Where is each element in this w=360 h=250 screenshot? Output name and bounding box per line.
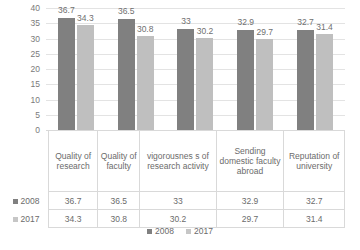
legend-item-2008: 2008 (147, 226, 174, 236)
bar-value-label: 36.7 (58, 6, 75, 15)
y-axis-tick-label: 30 (0, 35, 40, 44)
bar-2017: 34.3 (77, 25, 94, 130)
y-axis-tick-label: 35 (0, 19, 40, 28)
bar-group: 32.731.4 (285, 8, 345, 130)
bar-2008: 32.9 (237, 30, 254, 130)
y-axis-tick-label: 5 (0, 111, 40, 120)
bar-value-label: 32.7 (297, 18, 314, 27)
y-axis-tick-label: 15 (0, 80, 40, 89)
table-value-cell: 36.5 (98, 192, 140, 210)
legend-label: 2008 (155, 226, 174, 236)
bar-value-label: 29.7 (257, 28, 274, 37)
legend-item-2017: 2017 (186, 226, 213, 236)
table-value-cell: 32.9 (216, 192, 284, 210)
table-value-cell: 36.7 (49, 192, 98, 210)
bar-2017: 29.7 (256, 39, 273, 130)
table-row-header-label: 2008 (21, 196, 40, 206)
table-category-cell: vigorousnes s of research activity (140, 131, 216, 192)
table-value-cell: 34.3 (49, 210, 98, 228)
table-value-cell: 30.2 (140, 210, 216, 228)
y-axis-tick-label: 10 (0, 96, 40, 105)
bar-2017: 31.4 (316, 34, 333, 130)
table-category-cell: Quality of faculty (98, 131, 140, 192)
bar-value-label: 31.4 (316, 23, 333, 32)
table-value-cell: 30.8 (98, 210, 140, 228)
bar-2017: 30.8 (137, 36, 154, 130)
series-swatch-icon (13, 217, 18, 222)
bar-groups: 36.734.336.530.83330.232.929.732.731.4 (46, 8, 345, 130)
y-axis-tick-label: 25 (0, 50, 40, 59)
table-row-header-label: 2017 (21, 214, 40, 224)
data-table-body: Quality of researchQuality of facultyvig… (4, 131, 345, 228)
bar-value-label: 32.9 (238, 18, 255, 27)
bar-group: 36.734.3 (46, 8, 106, 130)
bar-value-label: 30.2 (197, 27, 214, 36)
table-value-cell: 31.4 (284, 210, 345, 228)
bar-2008: 33 (177, 29, 194, 130)
bar-value-label: 33 (181, 17, 190, 26)
bar-2008: 36.7 (58, 18, 75, 130)
table-row-header-2017: 2017 (4, 210, 49, 228)
table-category-cell: Quality of research (49, 131, 98, 192)
table-value-cell: 29.7 (216, 210, 284, 228)
bar-value-label: 30.8 (137, 25, 154, 34)
table-row-categories: Quality of researchQuality of facultyvig… (4, 131, 345, 192)
data-table: Quality of researchQuality of facultyvig… (4, 130, 345, 228)
table-row-header-2008: 2008 (4, 192, 49, 210)
legend-swatch-icon (147, 229, 152, 234)
y-axis-ticks: 4035302520151050 (0, 8, 40, 130)
y-axis-tick-label: 40 (0, 4, 40, 13)
bar-value-label: 36.5 (118, 7, 135, 16)
table-corner-cell (4, 131, 49, 192)
bar-value-label: 34.3 (77, 14, 94, 23)
table-category-cell: Reputation of university (284, 131, 345, 192)
bar-2008: 36.5 (118, 19, 135, 130)
bar-2017: 30.2 (196, 38, 213, 130)
y-axis-tick-label: 20 (0, 65, 40, 74)
bar-2008: 32.7 (297, 30, 314, 130)
table-row: 201734.330.830.229.731.4 (4, 210, 345, 228)
chart-container: 4035302520151050 36.734.336.530.83330.23… (0, 0, 360, 250)
bar-group: 32.929.7 (225, 8, 285, 130)
legend-label: 2017 (194, 226, 213, 236)
table-value-cell: 32.7 (284, 192, 345, 210)
table-row: 200836.736.53332.932.7 (4, 192, 345, 210)
plot-area: 36.734.336.530.83330.232.929.732.731.4 (46, 8, 345, 130)
table-category-cell: Sending domestic faculty abroad (216, 131, 284, 192)
table-value-cell: 33 (140, 192, 216, 210)
bar-group: 3330.2 (166, 8, 226, 130)
series-swatch-icon (13, 199, 18, 204)
chart-legend: 20082017 (0, 226, 360, 236)
bar-group: 36.530.8 (106, 8, 166, 130)
legend-swatch-icon (186, 229, 191, 234)
